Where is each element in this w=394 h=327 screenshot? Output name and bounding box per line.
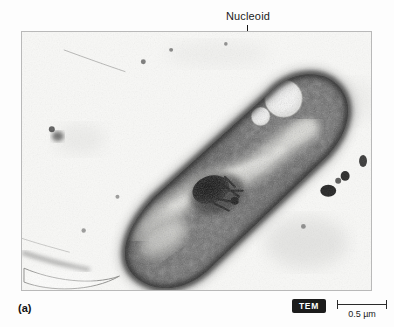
figure-panel: Nucleoid (0, 0, 394, 327)
scale-bar-tick-right (386, 300, 387, 309)
scale-bar-label: 0.5 µm (337, 309, 387, 319)
scale-bar-rule (337, 304, 387, 305)
callout-label-nucleoid: Nucleoid (226, 10, 270, 22)
micrograph-image (21, 31, 372, 291)
panel-letter: (a) (18, 302, 31, 314)
scale-bar-tick-left (337, 300, 338, 309)
scale-bar: 0.5 µm (337, 299, 387, 321)
micrograph-canvas (22, 32, 371, 290)
tem-technique-badge: TEM (292, 299, 326, 313)
